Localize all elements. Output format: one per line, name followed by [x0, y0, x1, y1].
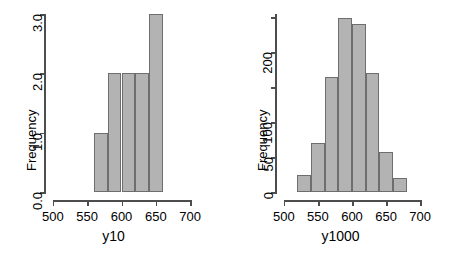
histogram-bar — [325, 77, 339, 192]
y-tick-label: 0 — [261, 192, 276, 199]
histogram-bar — [94, 133, 108, 192]
x-tick — [122, 200, 124, 206]
histogram-panel-y1000: 050100200 Frequency 500550600650700 y100… — [227, 0, 454, 262]
x-tick — [87, 200, 89, 206]
x-tick — [156, 200, 158, 206]
y-axis-title: Frequency — [25, 110, 38, 171]
x-tick-label: 550 — [76, 209, 98, 224]
histogram-bar — [393, 178, 407, 192]
histogram-bar — [122, 73, 136, 192]
x-tick — [386, 200, 388, 206]
x-tick-label: 600 — [341, 209, 363, 224]
x-tick-label: 700 — [179, 209, 201, 224]
plot-area-right — [277, 14, 427, 192]
histogram-bar — [379, 152, 393, 192]
x-axis-title-right: y1000 — [227, 228, 454, 244]
x-tick — [352, 200, 354, 206]
x-tick-label: 650 — [145, 209, 167, 224]
x-tick-label: 700 — [409, 209, 431, 224]
histogram-bar — [366, 73, 380, 192]
x-tick-label: 500 — [273, 209, 295, 224]
histogram-figure: 0.01.02.03.0 Frequency 500550600650700 y… — [0, 0, 454, 262]
x-tick — [318, 200, 320, 206]
x-tick-label: 500 — [42, 209, 64, 224]
plot-area-left — [46, 14, 197, 192]
histogram-bar — [135, 73, 149, 192]
x-tick — [53, 200, 55, 206]
x-axis-left: 500550600650700 — [46, 200, 197, 206]
histogram-bars — [46, 14, 197, 192]
histogram-bar — [149, 14, 163, 192]
y-tick-label: 200 — [261, 52, 276, 74]
x-tick — [190, 200, 192, 206]
y-tick-label: 3.0 — [30, 14, 45, 32]
x-tick-label: 600 — [111, 209, 133, 224]
y-axis-title: Frequency — [256, 110, 269, 171]
x-tick — [420, 200, 422, 206]
y-tick-label: 0.0 — [30, 192, 45, 210]
histogram-bar — [352, 24, 366, 192]
histogram-bar — [338, 18, 352, 193]
histogram-bar — [108, 73, 122, 192]
x-tick-label: 550 — [307, 209, 329, 224]
histogram-panel-y10: 0.01.02.03.0 Frequency 500550600650700 y… — [0, 0, 227, 262]
y-tick-label: 2.0 — [30, 73, 45, 91]
histogram-bar — [297, 175, 311, 192]
x-axis-title-left: y10 — [0, 228, 227, 244]
x-tick-label: 650 — [375, 209, 397, 224]
histogram-bars — [277, 14, 427, 192]
x-tick — [284, 200, 286, 206]
x-axis-right: 500550600650700 — [277, 200, 427, 206]
histogram-bar — [311, 143, 325, 192]
